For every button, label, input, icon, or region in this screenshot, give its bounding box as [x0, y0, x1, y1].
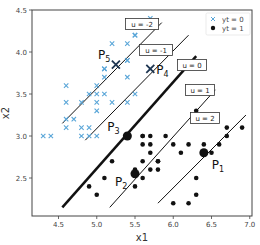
contour-label: u = -1 [145, 47, 167, 55]
data-point-dot [102, 176, 107, 181]
legend-marker-dot [211, 26, 215, 30]
data-point-dot [133, 184, 138, 189]
highlight-point [123, 132, 132, 141]
data-point-dot [156, 159, 161, 164]
plot-area: u = -2u = -1u = 0u = 1u = 2P1P2P3P4P54.5… [0, 7, 255, 244]
data-point-dot [194, 176, 199, 181]
data-point-dot [140, 159, 145, 164]
data-point-dot [87, 184, 92, 189]
y-tick-label: 4.5 [16, 7, 27, 15]
data-point-dot [156, 167, 161, 172]
legend-label: yt = 0 [222, 16, 244, 24]
scatter-chart: u = -2u = -1u = 0u = 1u = 2P1P2P3P4P54.5… [0, 0, 260, 245]
data-point-dot [240, 125, 245, 130]
y-axis-label: x2 [0, 107, 11, 119]
data-point-dot [148, 134, 153, 139]
data-point-dot [148, 167, 153, 172]
x-tick-label: 7.0 [244, 221, 255, 229]
data-point-dot [209, 151, 214, 156]
data-point-dot [110, 159, 115, 164]
x-axis-label: x1 [136, 232, 148, 243]
contour-label: u = 0 [182, 62, 201, 70]
contour-label: u = 1 [190, 87, 209, 95]
x-tick-label: 5.0 [91, 221, 102, 229]
data-point-dot [140, 176, 145, 181]
data-point-dot [171, 201, 176, 206]
highlight-point [131, 169, 140, 178]
data-point-dot [225, 125, 230, 130]
y-tick-label: 3.0 [16, 133, 27, 141]
data-point-dot [217, 142, 222, 147]
data-point-dot [140, 134, 145, 139]
data-point-dot [225, 134, 230, 139]
data-point-dot [179, 151, 184, 156]
data-point-dot [171, 142, 176, 147]
y-tick-label: 4.0 [16, 49, 27, 57]
data-point-dot [202, 142, 207, 147]
x-tick-label: 5.5 [129, 221, 140, 229]
data-point-dot [163, 134, 168, 139]
data-point-dot [94, 193, 99, 198]
x-tick-label: 4.5 [53, 221, 64, 229]
x-tick-label: 6.0 [168, 221, 179, 229]
data-point-dot [194, 193, 199, 198]
y-tick-label: 3.5 [16, 91, 27, 99]
data-point-dot [148, 142, 153, 147]
data-point-dot [186, 142, 191, 147]
y-tick-label: 2.5 [16, 175, 27, 183]
x-tick-label: 6.5 [206, 221, 217, 229]
data-point-dot [148, 151, 153, 156]
data-point-dot [140, 142, 145, 147]
legend-label: yt = 1 [222, 25, 244, 33]
contour-label: u = -2 [131, 21, 153, 29]
data-point-dot [186, 201, 191, 206]
highlight-point [199, 148, 208, 157]
contour-label: u = 2 [195, 115, 214, 123]
